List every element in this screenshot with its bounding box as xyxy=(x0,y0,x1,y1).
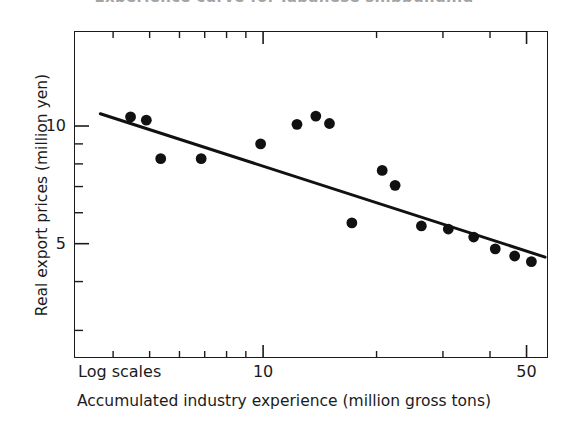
log-scales-note: Log scales xyxy=(78,362,161,381)
data-point xyxy=(416,221,427,232)
data-point xyxy=(509,251,520,262)
data-point xyxy=(468,232,479,243)
data-point xyxy=(346,218,357,229)
data-point xyxy=(196,153,207,164)
data-point xyxy=(310,111,321,122)
data-point xyxy=(255,138,266,149)
axis-ticks-layer xyxy=(74,31,527,358)
data-point xyxy=(377,165,388,176)
x-tick-label: 10 xyxy=(243,362,283,381)
x-tick-label: 50 xyxy=(507,362,547,381)
data-point xyxy=(443,224,454,235)
x-axis-title: Accumulated industry experience (million… xyxy=(0,392,568,410)
y-axis-title: Real export prices (million yen) xyxy=(33,45,51,345)
data-point xyxy=(390,180,401,191)
data-point xyxy=(292,119,303,130)
data-point xyxy=(490,243,501,254)
data-point xyxy=(141,115,152,126)
data-point xyxy=(324,118,335,129)
figure-root: Experience curve for Japanese shipbuildi… xyxy=(0,0,568,428)
data-point xyxy=(155,153,166,164)
data-point xyxy=(125,112,136,123)
data-point xyxy=(526,256,537,267)
